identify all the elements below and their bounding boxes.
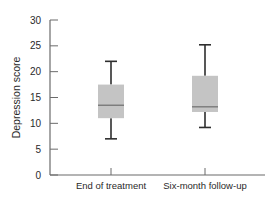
x-category-label: Six-month follow-up [163, 180, 246, 191]
box-group [192, 45, 218, 128]
boxes [98, 45, 218, 139]
y-axis-title: Depression score [10, 56, 22, 138]
iqr-box [98, 85, 124, 119]
y-tick-label: 5 [35, 144, 41, 155]
y-tick-label: 15 [30, 92, 42, 103]
x-ticks: End of treatmentSix-month follow-up [76, 168, 247, 191]
y-tick-label: 25 [30, 40, 42, 51]
x-category-label: End of treatment [76, 180, 147, 191]
box-plot-chart: Depression score 051015202530 End of tre… [0, 0, 279, 199]
y-tick-label: 10 [30, 118, 42, 129]
y-tick-label: 20 [30, 66, 42, 77]
y-ticks: 051015202530 [30, 15, 58, 181]
y-tick-label: 0 [35, 170, 41, 181]
box-group [98, 61, 124, 139]
y-tick-label: 30 [30, 15, 42, 26]
